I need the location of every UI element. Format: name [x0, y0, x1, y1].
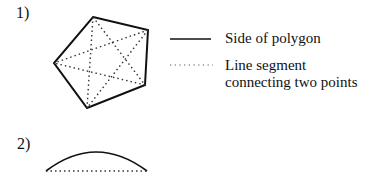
- pentagon: [54, 17, 148, 108]
- arc-figure: [46, 152, 147, 171]
- legend-solid-label: Side of polygon: [225, 30, 321, 47]
- pentagon-diagonals: [54, 17, 148, 108]
- legend-dotted-label-1: Line segment: [225, 57, 306, 74]
- diagram-canvas: [0, 0, 372, 190]
- legend-symbols: [170, 39, 213, 65]
- legend-dotted-label-2: connecting two points: [225, 74, 357, 91]
